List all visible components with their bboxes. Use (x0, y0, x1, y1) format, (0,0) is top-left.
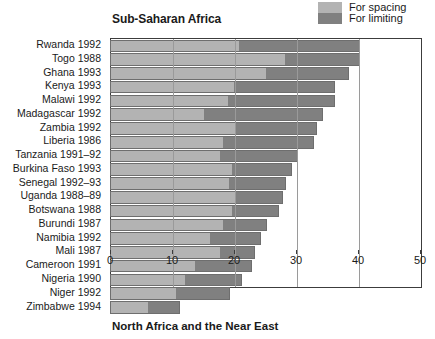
bar-row (111, 218, 421, 232)
category-label: Burundi 1987 (0, 217, 106, 231)
stacked-bar (111, 220, 266, 231)
category-label: Rwanda 1992 (0, 38, 106, 52)
bar-segment-spacing (111, 178, 229, 189)
bar-row (111, 301, 421, 315)
bottom-axis-title: North Africa and the Near East (112, 320, 278, 332)
stacked-bar (111, 164, 291, 175)
stacked-bar (111, 137, 313, 148)
stacked-bar (111, 192, 282, 203)
x-axis-tick-label: 0 (107, 254, 113, 266)
category-label: Togo 1988 (0, 52, 106, 66)
bar-segment-limiting (148, 302, 179, 313)
bar-segment-spacing (111, 68, 266, 79)
bar-row (111, 122, 421, 136)
bar-row (111, 163, 421, 177)
x-axis-tick-label: 50 (414, 254, 426, 266)
bar-segment-limiting (234, 82, 334, 93)
bar-segment-limiting (239, 41, 359, 52)
bar-segment-spacing (111, 302, 148, 313)
bar-segment-limiting (204, 109, 322, 120)
stacked-bar (111, 178, 285, 189)
bar-segment-limiting (223, 137, 313, 148)
bar-segment-spacing (111, 54, 285, 65)
category-label: Namibia 1992 (0, 231, 106, 245)
bar-row (111, 53, 421, 67)
bar-segment-limiting (220, 151, 298, 162)
bar-segment-limiting (266, 68, 348, 79)
category-label: Nigeria 1990 (0, 272, 106, 286)
category-label: Tanzania 1991–92 (0, 148, 106, 162)
bar-row (111, 80, 421, 94)
x-axis-tick-label: 40 (352, 254, 364, 266)
stacked-bar (111, 233, 260, 244)
bar-segment-spacing (111, 151, 220, 162)
stacked-bar (111, 275, 241, 286)
bar-segment-spacing (111, 41, 239, 52)
bar-segment-limiting (229, 178, 285, 189)
bar-segment-limiting (285, 54, 359, 65)
bar-segment-spacing (111, 288, 176, 299)
category-label: Zambia 1992 (0, 121, 106, 135)
bar-segment-limiting (185, 275, 241, 286)
panel-title: Sub-Saharan Africa (112, 12, 221, 26)
bar-row (111, 149, 421, 163)
bar-row (111, 287, 421, 301)
category-label: Senegal 1992–93 (0, 176, 106, 190)
stacked-bar (111, 151, 297, 162)
bar-segment-limiting (232, 164, 291, 175)
stacked-bar (111, 68, 348, 79)
bar-row (111, 135, 421, 149)
stacked-bar (111, 206, 278, 217)
category-label: Niger 1992 (0, 286, 106, 300)
bar-segment-limiting (232, 206, 279, 217)
bar-row (111, 67, 421, 81)
bar-row (111, 39, 421, 53)
category-label: Burkina Faso 1993 (0, 162, 106, 176)
bar-row (111, 108, 421, 122)
legend-swatch-icon-limiting (318, 13, 342, 24)
x-axis-tick-label: 10 (166, 254, 178, 266)
bar-segment-limiting (235, 123, 316, 134)
bar-row (111, 273, 421, 287)
bar-segment-limiting (223, 220, 266, 231)
x-axis-tick-label: 20 (228, 254, 240, 266)
category-label: Uganda 1988–89 (0, 189, 106, 203)
category-label: Malawi 1992 (0, 93, 106, 107)
bar-segment-limiting (228, 96, 334, 107)
bar-segment-spacing (111, 206, 232, 217)
legend-item-limiting: For limiting (318, 13, 406, 24)
x-axis-tick-labels: 01020304050 (0, 254, 435, 268)
category-label: Ghana 1993 (0, 66, 106, 80)
bar-row (111, 232, 421, 246)
bar-segment-spacing (111, 137, 223, 148)
category-label: Kenya 1993 (0, 79, 106, 93)
bar-row (111, 177, 421, 191)
category-label: Botswana 1988 (0, 203, 106, 217)
stacked-bar (111, 302, 179, 313)
bar-row (111, 204, 421, 218)
bar-segment-spacing (111, 220, 223, 231)
category-label: Madagascar 1992 (0, 107, 106, 121)
stacked-bar (111, 82, 334, 93)
stacked-bar (111, 288, 229, 299)
category-label: Liberia 1986 (0, 134, 106, 148)
category-label: Zimbabwe 1994 (0, 300, 106, 314)
legend-swatch-icon-spacing (318, 2, 342, 13)
chart-legend: For spacing For limiting (318, 2, 406, 24)
bar-segment-limiting (235, 192, 282, 203)
legend-label-limiting: For limiting (349, 13, 403, 24)
stacked-bar (111, 96, 334, 107)
category-axis-labels: Rwanda 1992Togo 1988Ghana 1993Kenya 1993… (0, 38, 106, 313)
bar-segment-spacing (111, 233, 210, 244)
stacked-bar (111, 109, 322, 120)
bar-row (111, 94, 421, 108)
x-axis-tick-label: 30 (290, 254, 302, 266)
bar-row (111, 190, 421, 204)
bar-segment-spacing (111, 109, 204, 120)
bar-segment-spacing (111, 275, 185, 286)
bar-segment-spacing (111, 96, 228, 107)
bar-segment-limiting (176, 288, 229, 299)
stacked-bar (111, 123, 316, 134)
bar-segment-spacing (111, 164, 232, 175)
